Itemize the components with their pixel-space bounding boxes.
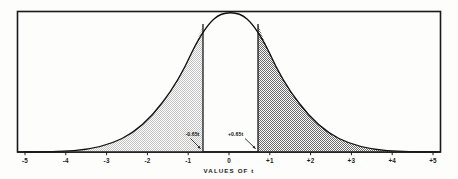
x-tick-label: -5 (22, 157, 28, 164)
x-tick-label: +2 (307, 157, 315, 164)
figure-canvas: -5 -4 -3 -2 -1 0 +1 +2 +3 +4 +5 VALUES O… (0, 0, 458, 179)
left-shaded-region (25, 24, 203, 152)
x-tick-label: +5 (429, 157, 437, 164)
x-axis-tick-labels: -5 -4 -3 -2 -1 0 +1 +2 +3 +4 +5 (22, 157, 437, 164)
x-tick-label: 0 (227, 157, 231, 164)
annotation-minus-065-label: -0.65t (186, 131, 200, 137)
x-tick-label: +4 (388, 157, 396, 164)
annotation-plus-065: +0.65t (228, 131, 256, 149)
x-tick-label: -3 (104, 157, 110, 164)
annotation-plus-065-label: +0.65t (228, 131, 243, 137)
x-tick-label: -4 (63, 157, 69, 164)
right-shaded-region (258, 24, 436, 152)
x-tick-label: -2 (144, 157, 150, 164)
x-tick-label: -1 (185, 157, 191, 164)
normal-distribution-chart: -5 -4 -3 -2 -1 0 +1 +2 +3 +4 +5 VALUES O… (0, 0, 458, 179)
x-tick-label: +1 (266, 157, 274, 164)
x-axis-title: VALUES OF t (204, 167, 255, 174)
x-tick-label: +3 (348, 157, 356, 164)
